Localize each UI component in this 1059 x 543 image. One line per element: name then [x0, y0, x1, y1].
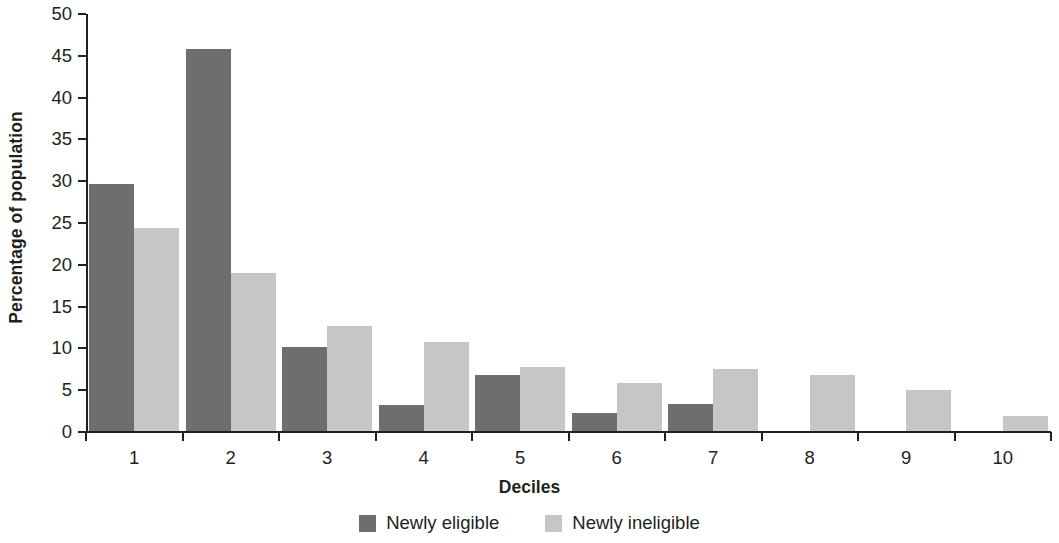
y-axis-tick-label: 25: [51, 212, 72, 234]
bar-newly-eligible-decile-5: [475, 375, 520, 431]
bar-newly-ineligible-decile-4: [424, 342, 469, 431]
x-axis-tick: [471, 432, 473, 441]
bar-newly-eligible-decile-4: [379, 405, 424, 431]
x-axis-tick-label: 8: [805, 447, 815, 469]
x-axis-tick: [278, 432, 280, 441]
x-axis-tick: [857, 432, 859, 441]
bar-newly-eligible-decile-1: [89, 184, 134, 431]
legend-swatch-icon: [545, 515, 562, 532]
y-axis-tick-label: 35: [51, 128, 72, 150]
x-axis-tick-label: 7: [708, 447, 718, 469]
y-axis-tick: 40: [78, 97, 86, 99]
legend-swatch-icon: [359, 515, 376, 532]
bar-newly-ineligible-decile-1: [134, 228, 179, 431]
y-axis-tick-label: 40: [51, 87, 72, 109]
legend-item-label: Newly eligible: [386, 512, 499, 534]
x-axis-tick-label: 4: [419, 447, 429, 469]
x-axis-tick: [375, 432, 377, 441]
y-axis-tick: 20: [78, 264, 86, 266]
bar-newly-eligible-decile-6: [572, 413, 617, 431]
y-axis-tick-label: 15: [51, 296, 72, 318]
bar-newly-ineligible-decile-2: [231, 273, 276, 431]
y-axis-tick-label: 0: [62, 421, 72, 443]
legend-item[interactable]: Newly ineligible: [545, 512, 700, 534]
y-axis-tick-label: 45: [51, 45, 72, 67]
bar-newly-ineligible-decile-6: [617, 383, 662, 431]
legend-item[interactable]: Newly eligible: [359, 512, 499, 534]
bar-newly-ineligible-decile-10: [1003, 416, 1048, 431]
x-axis-tick-label: 9: [901, 447, 911, 469]
x-axis-tick: [182, 432, 184, 441]
x-axis-tick: [954, 432, 956, 441]
bar-newly-eligible-decile-2: [186, 49, 231, 431]
y-axis-tick: 35: [78, 138, 86, 140]
y-axis-tick: 45: [78, 55, 86, 57]
y-axis-title-label: Percentage of population: [6, 111, 27, 323]
x-axis-tick-label: 6: [612, 447, 622, 469]
x-axis-tick-label: 10: [992, 447, 1013, 469]
x-axis-tick: [664, 432, 666, 441]
y-axis-line: [86, 14, 88, 432]
y-axis-tick: 30: [78, 180, 86, 182]
y-axis-tick: 50: [78, 13, 86, 15]
plot-area: 05101520253035404550 12345678910: [86, 14, 1051, 432]
y-axis-title: Percentage of population: [0, 0, 32, 435]
bar-newly-ineligible-decile-5: [520, 367, 565, 431]
y-axis-tick-label: 10: [51, 337, 72, 359]
x-axis-title: Deciles: [0, 477, 1059, 498]
bar-newly-ineligible-decile-7: [713, 369, 758, 431]
y-axis-tick: 10: [78, 347, 86, 349]
y-axis-tick-label: 20: [51, 254, 72, 276]
y-axis-tick: 5: [78, 389, 86, 391]
x-axis-tick: [1050, 432, 1052, 441]
y-axis-tick: 15: [78, 306, 86, 308]
y-axis-tick-label: 30: [51, 170, 72, 192]
x-axis-tick-label: 5: [515, 447, 525, 469]
bar-newly-ineligible-decile-8: [810, 375, 855, 431]
x-axis-tick: [85, 432, 87, 441]
bar-newly-ineligible-decile-3: [327, 326, 372, 431]
y-axis-tick-label: 50: [51, 3, 72, 25]
x-axis-tick-label: 1: [129, 447, 139, 469]
y-axis-tick-label: 5: [62, 379, 72, 401]
bar-newly-eligible-decile-3: [282, 347, 327, 431]
bar-chart-figure: Percentage of population 051015202530354…: [0, 0, 1059, 543]
chart-legend: Newly eligibleNewly ineligible: [0, 512, 1059, 534]
legend-item-label: Newly ineligible: [572, 512, 700, 534]
x-axis-tick-label: 3: [322, 447, 332, 469]
bar-newly-eligible-decile-7: [668, 404, 713, 431]
x-axis-tick-label: 2: [226, 447, 236, 469]
x-axis-tick: [761, 432, 763, 441]
y-axis-tick: 25: [78, 222, 86, 224]
bar-newly-ineligible-decile-9: [906, 390, 951, 431]
x-axis-tick: [568, 432, 570, 441]
